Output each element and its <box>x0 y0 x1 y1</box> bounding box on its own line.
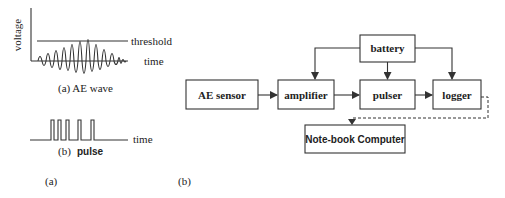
diagram-canvas: voltage threshold time (a) AE wave time … <box>0 0 505 198</box>
time-label-pulse: time <box>133 133 153 145</box>
notebook-arrowhead <box>348 119 356 125</box>
battery-to-amplifier-arrow <box>315 48 360 79</box>
logger-block: logger <box>433 80 481 109</box>
voltage-axis-label: voltage <box>11 19 23 51</box>
time-label-wave: time <box>144 55 164 67</box>
pulse-caption-word: pulse <box>77 146 104 157</box>
ae-wave-plot: voltage threshold time (a) AE wave <box>11 8 172 95</box>
pulse-caption-prefix: (b) <box>58 145 71 158</box>
amplifier-block: amplifier <box>278 80 334 109</box>
notebook-computer-label: Note-book Computer <box>305 134 405 145</box>
ae-sensor-label: AE sensor <box>198 89 246 101</box>
pulser-block: pulser <box>360 80 415 109</box>
ae-sensor-block: AE sensor <box>186 80 258 109</box>
panel-a-caption: (a) <box>45 175 58 188</box>
logger-label: logger <box>442 89 471 101</box>
notebook-computer-block: Note-book Computer <box>305 125 405 153</box>
amplifier-label: amplifier <box>284 89 327 101</box>
panel-b-caption: (b) <box>178 175 191 188</box>
block-diagram: battery AE sensor amplifier pulser logge… <box>186 35 488 153</box>
ae-waveform <box>38 40 126 74</box>
pulser-label: pulser <box>373 89 402 101</box>
battery-block: battery <box>360 35 415 62</box>
pulse-train <box>30 120 128 140</box>
pulse-plot: time (b) pulse <box>30 120 153 158</box>
battery-label: battery <box>370 42 405 54</box>
battery-to-logger-arrow <box>415 48 452 79</box>
ae-wave-caption: (a) AE wave <box>58 82 113 95</box>
threshold-label: threshold <box>131 35 172 47</box>
